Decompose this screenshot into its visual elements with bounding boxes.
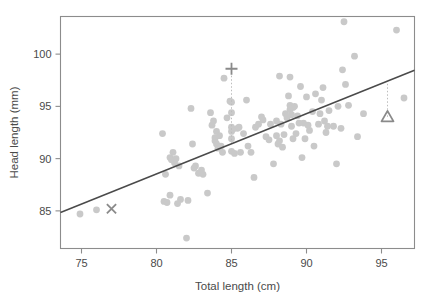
data-point bbox=[360, 110, 367, 117]
data-point bbox=[221, 75, 228, 82]
cross-marker-icon bbox=[107, 204, 116, 213]
x-tick-label: 75 bbox=[75, 257, 87, 269]
data-point bbox=[312, 90, 319, 97]
y-axis-title: Head length (mm) bbox=[8, 86, 20, 178]
data-point bbox=[159, 130, 166, 137]
regression-line bbox=[61, 70, 415, 212]
data-point bbox=[281, 131, 288, 138]
data-point bbox=[318, 97, 325, 104]
y-tick-label: 90 bbox=[39, 153, 51, 165]
data-point bbox=[188, 105, 195, 112]
data-point bbox=[288, 111, 295, 118]
data-point bbox=[276, 137, 283, 144]
data-point bbox=[354, 133, 361, 140]
data-point bbox=[276, 73, 283, 80]
data-point bbox=[248, 149, 255, 156]
data-point bbox=[164, 199, 171, 206]
data-point bbox=[231, 150, 238, 157]
data-point bbox=[333, 160, 340, 167]
scatter-plot-figure: 7580859095859095100Total length (cm)Head… bbox=[0, 0, 437, 303]
data-point bbox=[288, 123, 295, 130]
data-point bbox=[341, 18, 348, 25]
data-point bbox=[237, 149, 244, 156]
data-point bbox=[192, 163, 199, 170]
data-point bbox=[207, 109, 214, 116]
data-point bbox=[224, 114, 231, 121]
data-point bbox=[240, 130, 247, 137]
data-point bbox=[251, 174, 258, 181]
data-point bbox=[185, 197, 192, 204]
y-tick-label: 85 bbox=[39, 205, 51, 217]
data-point bbox=[351, 53, 358, 60]
data-point bbox=[266, 136, 273, 143]
data-point bbox=[302, 135, 309, 142]
data-point bbox=[311, 143, 318, 150]
x-tick-label: 80 bbox=[150, 257, 162, 269]
data-point bbox=[245, 143, 252, 150]
y-tick-label: 100 bbox=[33, 48, 51, 60]
plot-frame bbox=[61, 17, 415, 249]
data-point bbox=[93, 206, 100, 213]
data-point-layer bbox=[77, 18, 408, 241]
data-point bbox=[299, 154, 306, 161]
data-point bbox=[219, 149, 226, 156]
data-point bbox=[335, 103, 342, 110]
data-point bbox=[200, 171, 207, 178]
plus-marker-icon bbox=[226, 63, 238, 75]
data-point bbox=[177, 196, 184, 203]
y-tick-label: 95 bbox=[39, 100, 51, 112]
data-point bbox=[167, 192, 174, 199]
data-point bbox=[345, 102, 352, 109]
data-point bbox=[236, 124, 243, 131]
data-point bbox=[342, 81, 349, 88]
data-point bbox=[324, 123, 331, 130]
data-point bbox=[189, 141, 196, 148]
data-point bbox=[77, 211, 84, 218]
data-point bbox=[297, 83, 304, 90]
data-point bbox=[279, 144, 286, 151]
data-point bbox=[303, 94, 310, 101]
x-tick-label: 95 bbox=[375, 257, 387, 269]
data-point bbox=[339, 66, 346, 73]
data-point bbox=[204, 190, 211, 197]
x-tick-label: 90 bbox=[300, 257, 312, 269]
data-point bbox=[393, 27, 400, 34]
data-point bbox=[243, 97, 250, 104]
data-point bbox=[287, 74, 294, 81]
data-point bbox=[170, 149, 177, 156]
data-point bbox=[306, 127, 313, 134]
x-tick-label: 85 bbox=[225, 257, 237, 269]
data-point bbox=[315, 121, 322, 128]
data-point bbox=[323, 129, 330, 136]
data-point bbox=[216, 132, 223, 139]
data-point bbox=[401, 95, 408, 102]
data-point bbox=[210, 118, 217, 125]
data-point bbox=[326, 107, 333, 114]
data-point bbox=[291, 103, 298, 110]
data-point bbox=[173, 155, 180, 162]
data-point bbox=[293, 130, 300, 137]
data-point bbox=[330, 123, 337, 130]
data-point bbox=[320, 84, 327, 91]
x-axis-title: Total length (cm) bbox=[195, 280, 280, 292]
data-point bbox=[285, 93, 292, 100]
data-point bbox=[183, 235, 190, 242]
data-point bbox=[260, 117, 267, 124]
data-point bbox=[270, 160, 277, 167]
data-point bbox=[317, 110, 324, 117]
data-point bbox=[338, 125, 345, 132]
plot-canvas: 7580859095859095100Total length (cm)Head… bbox=[0, 0, 437, 303]
